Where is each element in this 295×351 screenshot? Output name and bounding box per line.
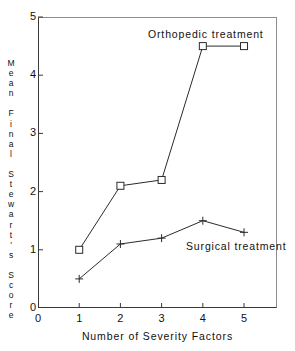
data-point-marker — [241, 43, 248, 50]
x-tick-label: 4 — [193, 313, 213, 324]
data-point-marker — [117, 182, 124, 189]
data-point-marker — [76, 246, 83, 253]
axis-ticks — [38, 17, 244, 308]
y-tick-label: 5 — [12, 11, 36, 22]
x-tick-label: 2 — [110, 313, 130, 324]
series-label-surgical: Surgical treatment — [186, 240, 287, 252]
series-label-orthopedic: Orthopedic treatment — [148, 28, 264, 40]
y-axis-title: M e a n F i n a l S t e w a r t ' s S c … — [4, 58, 18, 320]
x-axis-title: Number of Severity Factors — [38, 330, 277, 342]
data-point-marker — [158, 176, 165, 183]
x-tick-label: 5 — [234, 313, 254, 324]
data-point-marker — [199, 43, 206, 50]
series-orthopedic — [76, 43, 248, 254]
chart-canvas — [0, 0, 295, 351]
x-tick-label: 3 — [152, 313, 172, 324]
x-tick-label: 0 — [28, 313, 48, 324]
chart-figure: 012345 012345 M e a n F i n a l S t e w … — [0, 0, 295, 351]
x-tick-label: 1 — [69, 313, 89, 324]
x-axis-tick-labels: 012345 — [0, 313, 295, 329]
